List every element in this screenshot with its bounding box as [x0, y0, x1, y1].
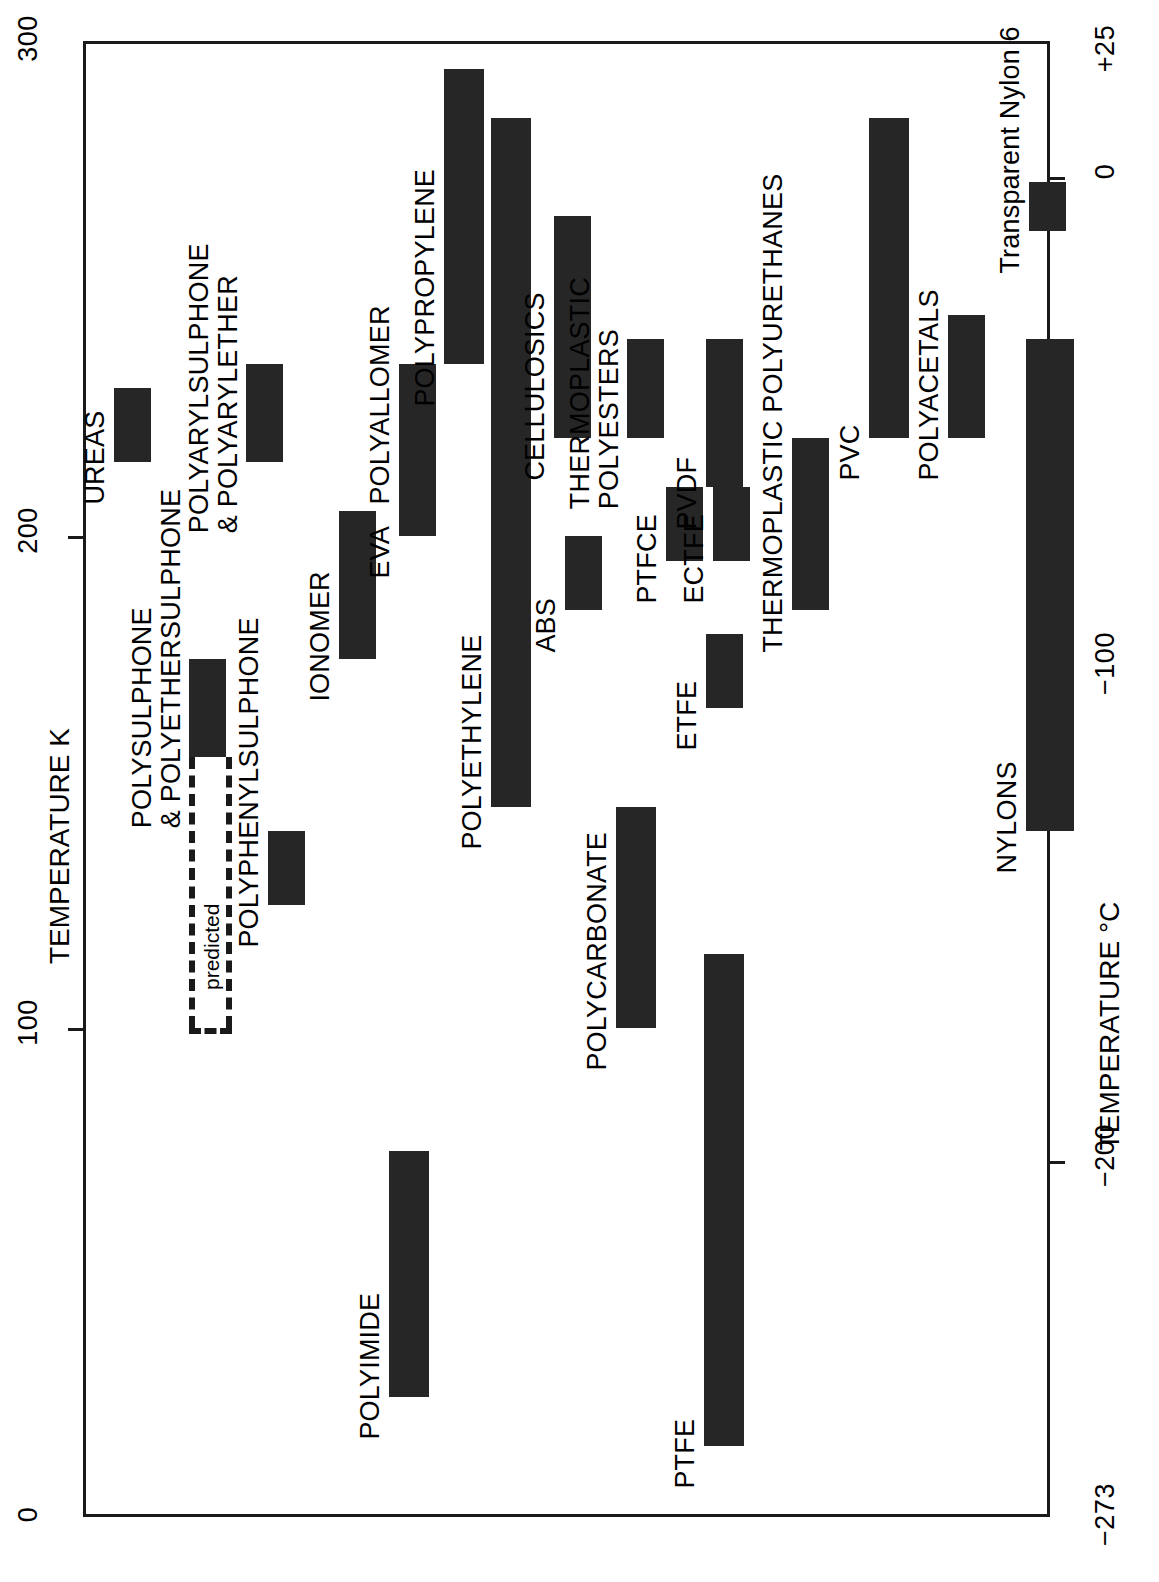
- bar-label-pvc: PVC: [836, 424, 865, 480]
- bar-ureas: [114, 388, 151, 462]
- bar-nylons: [1026, 339, 1074, 831]
- predicted-dashed-cap: [189, 1028, 232, 1034]
- bar-ptfe: [704, 954, 744, 1446]
- bar-label-polypropylene: POLYPROPYLENE: [411, 169, 440, 407]
- right-tick-−200: [1047, 1161, 1065, 1164]
- predicted-dashed-line-lower: [226, 757, 232, 1028]
- bar-label-polyallomer: POLYALLOMER: [366, 306, 395, 505]
- left-tick-label-100: 100: [15, 978, 42, 1068]
- bar-label-ptfce: PTFCE: [633, 514, 662, 604]
- right-tick-label-+25: +25: [1092, 3, 1119, 93]
- right-tick-0: [1047, 177, 1065, 180]
- bar-label-thermoplastic-polyesters: THERMOPLASTICPOLYESTERS: [566, 277, 623, 509]
- bar-label-thermoplastic-polyurethanes: THERMOPLASTIC POLYURETHANES: [759, 173, 788, 652]
- bar-polyarylsulphone: [246, 364, 283, 462]
- bar-label-polyimide: POLYIMIDE: [356, 1293, 385, 1440]
- bar-label-abs: ABS: [532, 598, 561, 653]
- bar-polyacetals: [948, 315, 985, 438]
- bar-label-cellulosics: CELLULOSICS: [521, 292, 550, 480]
- bar-thermoplastic-polyurethanes: [792, 438, 829, 610]
- bar-label-transparent-nylon-6: Transparent Nylon 6: [996, 26, 1025, 273]
- left-tick-label-0: 0: [15, 1470, 42, 1560]
- right-tick-label-−273: −273: [1092, 1470, 1119, 1560]
- bar-ectfe: [713, 487, 750, 561]
- left-tick-label-200: 200: [15, 486, 42, 576]
- bar-polyimide: [389, 1151, 429, 1397]
- bar-eva: [399, 462, 436, 536]
- bar-label-pvdf: PVDF: [673, 457, 702, 530]
- bar-label-ptfe: PTFE: [671, 1419, 700, 1489]
- bar-label-ureas: UREAS: [81, 411, 110, 505]
- bar-label-polycarbonate: POLYCARBONATE: [583, 832, 612, 1071]
- bar-label-polysulphone: POLYSULPHONE& POLYETHERSULPHONE: [128, 489, 185, 828]
- right-tick-label-0: 0: [1092, 126, 1119, 216]
- plot-frame: UREASPOLYARYLSULPHONE& POLYARYLETHERPOLY…: [83, 41, 1050, 1517]
- bar-pvc: [869, 118, 909, 438]
- predicted-label: predicted: [200, 904, 224, 990]
- bar-pvdf: [706, 339, 743, 487]
- right-tick-label-−100: −100: [1092, 618, 1119, 708]
- left-axis-title: TEMPERATURE K: [44, 706, 76, 986]
- bar-polypropylene: [444, 69, 484, 364]
- bar-label-nylons: NYLONS: [993, 762, 1022, 874]
- bar-label-etfe: ETFE: [673, 681, 702, 751]
- bar-thermoplastic-polyesters: [627, 339, 664, 437]
- bar-label-polyphenylsulphone: POLYPHENYLSULPHONE: [235, 617, 264, 947]
- left-tick-200: [68, 536, 86, 539]
- bar-label-eva: EVA: [366, 526, 395, 579]
- bar-transparent-nylon-6: [1029, 182, 1066, 231]
- bar-label-ionomer: IONOMER: [306, 571, 335, 701]
- bar-polycarbonate: [616, 807, 656, 1028]
- bar-label-polyacetals: POLYACETALS: [915, 289, 944, 480]
- left-tick-100: [68, 1028, 86, 1031]
- bar-abs: [565, 536, 602, 610]
- left-tick-label-300: 300: [15, 0, 42, 84]
- bar-polyphenylsulphone: [268, 831, 305, 905]
- bar-label-polyethylene: POLYETHYLENE: [458, 634, 487, 849]
- right-tick-label-−200: −200: [1092, 1110, 1119, 1200]
- predicted-dashed-line-upper: [189, 757, 195, 1028]
- bar-label-polyarylsulphone: POLYARYLSULPHONE& POLYARYLETHER: [185, 244, 242, 534]
- bar-etfe: [706, 634, 743, 708]
- bar-polysulphone: [189, 659, 226, 757]
